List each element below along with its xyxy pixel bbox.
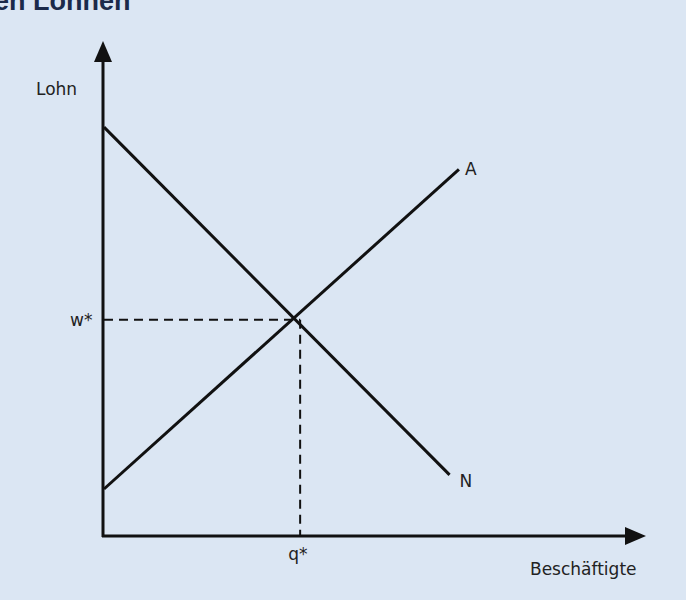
- x-axis-arrow-icon: [625, 527, 646, 545]
- x-axis-label: Beschäftigte: [530, 559, 637, 579]
- y-axis-label: Lohn: [36, 79, 77, 99]
- labor-market-diagram: Lohn Beschäftigte N A w* q*: [0, 0, 686, 600]
- equilibrium-wage-label: w*: [70, 310, 92, 330]
- equilibrium-quantity-label: q*: [288, 544, 307, 564]
- series-label-n: N: [460, 471, 473, 491]
- series-line-a: [104, 169, 459, 489]
- series-line-n: [104, 127, 450, 475]
- series-label-a: A: [465, 159, 477, 179]
- y-axis-arrow-icon: [94, 41, 112, 62]
